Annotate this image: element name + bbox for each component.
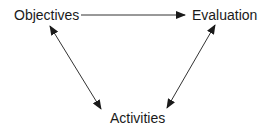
node-objectives: Objectives bbox=[14, 7, 79, 23]
arrow-objectives-activities bbox=[50, 26, 101, 109]
node-activities: Activities bbox=[110, 110, 165, 126]
arrow-evaluation-activities bbox=[167, 25, 215, 108]
cycle-diagram: Objectives Evaluation Activities bbox=[0, 0, 266, 128]
node-evaluation: Evaluation bbox=[192, 7, 257, 23]
